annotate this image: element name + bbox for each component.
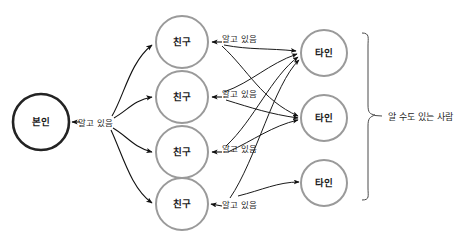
edge-friend-3-to-other-1	[226, 57, 298, 146]
edge-label-friend-4-to-others: 알고 있음	[222, 200, 257, 210]
edge-label-self-to-friends: 알고 있음	[78, 118, 113, 128]
node-friend-2-label: 친구	[173, 91, 191, 102]
edge-friend-1-to-other-2	[222, 46, 298, 116]
edge-friend-1-to-other-1	[224, 45, 296, 51]
node-self-1-label: 본인	[32, 116, 50, 127]
edge-label-friend-1-to-others: 알고 있음	[222, 34, 257, 44]
edge-label-friend-3-to-others: 알고 있음	[222, 144, 257, 154]
group-brace	[362, 33, 382, 200]
social-graph-diagram: 본인 친구 친구 친구 친구 타인 타인 타인	[0, 0, 462, 245]
node-friend-2[interactable]: 친구	[156, 71, 208, 123]
edge-stub-into-friend-4	[211, 204, 222, 206]
node-other-1-label: 타인	[315, 47, 333, 58]
edge-friend-2-to-other-2	[226, 100, 298, 118]
node-friend-3-label: 친구	[173, 146, 191, 157]
node-other-1[interactable]: 타인	[301, 30, 347, 76]
group-label-people-you-may-know: 알 수도 있는 사람	[388, 111, 453, 122]
node-other-3-label: 타인	[315, 177, 333, 188]
node-friend-4-label: 친구	[173, 198, 191, 209]
node-friend-3[interactable]: 친구	[156, 126, 208, 178]
node-other-2[interactable]: 타인	[301, 95, 347, 141]
node-other-2-label: 타인	[315, 112, 333, 123]
edges-friends-to-others	[211, 42, 299, 206]
node-friend-1[interactable]: 친구	[156, 16, 208, 68]
edge-self-to-friend-4	[111, 130, 152, 203]
brace-tip-icon	[375, 116, 382, 117]
edge-friend-4-to-other-1	[230, 60, 299, 198]
brace-path-icon	[362, 33, 375, 200]
edge-friend-4-to-other-3	[238, 182, 299, 196]
node-self-1[interactable]: 본인	[13, 94, 69, 150]
node-friend-1-label: 친구	[173, 36, 191, 47]
node-other-3[interactable]: 타인	[301, 160, 347, 206]
node-friend-4[interactable]: 친구	[156, 178, 208, 230]
edge-label-friend-2-to-others: 알고 있음	[222, 89, 257, 99]
diagram-canvas: 본인 친구 친구 친구 친구 타인 타인 타인	[0, 0, 462, 245]
